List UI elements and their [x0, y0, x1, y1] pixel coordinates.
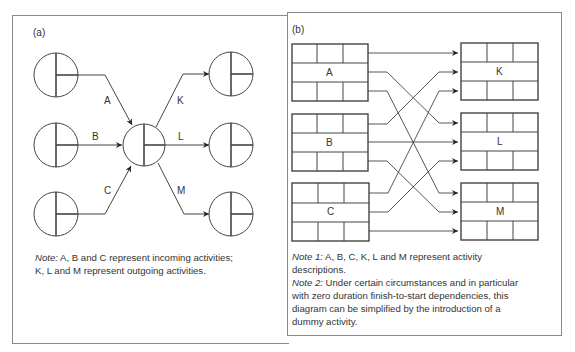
note2-text-line4: dummy activity. [292, 315, 518, 328]
dependency-links [368, 53, 458, 231]
activity-label-c: C [104, 185, 111, 196]
box-label-a: A [326, 67, 333, 78]
note1-prefix: Note 1: [292, 251, 323, 262]
node-m-end [209, 192, 253, 236]
note2-text-line2: with zero duration finish-to-start depen… [292, 289, 518, 302]
note-text: A, B and C represent incoming activities… [58, 252, 233, 263]
activity-label-b: B [92, 131, 99, 142]
note-prefix: Note: [35, 252, 58, 263]
node-center [123, 124, 165, 166]
box-label-m: M [496, 206, 504, 217]
panel-a-note: Note: A, B and C represent incoming acti… [35, 251, 233, 277]
node-l-end [209, 123, 253, 167]
node-b-start [34, 123, 78, 167]
event-nodes [34, 52, 253, 236]
activity-label-k: K [177, 95, 184, 106]
panel-a-label: (a) [33, 27, 45, 38]
box-label-b: B [326, 137, 333, 148]
box-label-k: K [496, 66, 503, 77]
note1-text-line2: descriptions. [292, 263, 518, 276]
activity-label-m: M [177, 185, 185, 196]
box-label-l: L [497, 136, 503, 147]
activity-label-l: L [178, 131, 184, 142]
panel-b-notes: Note 1: A, B, C, K, L and M represent ac… [292, 250, 518, 328]
box-label-c: C [327, 206, 334, 217]
note2-text-line3: diagram can be simplified by the introdu… [292, 302, 518, 315]
activity-label-a: A [104, 95, 111, 106]
node-a-start [34, 53, 78, 97]
note-text-line2: K, L and M represent outgoing activities… [35, 264, 233, 277]
node-k-end [209, 52, 253, 96]
node-c-start [34, 192, 78, 236]
note2-text: Under certain circumstances and in parti… [323, 277, 518, 288]
note2-prefix: Note 2: [292, 277, 323, 288]
panel-b-label: (b) [292, 24, 304, 35]
note1-text: A, B, C, K, L and M represent activity [323, 251, 482, 262]
